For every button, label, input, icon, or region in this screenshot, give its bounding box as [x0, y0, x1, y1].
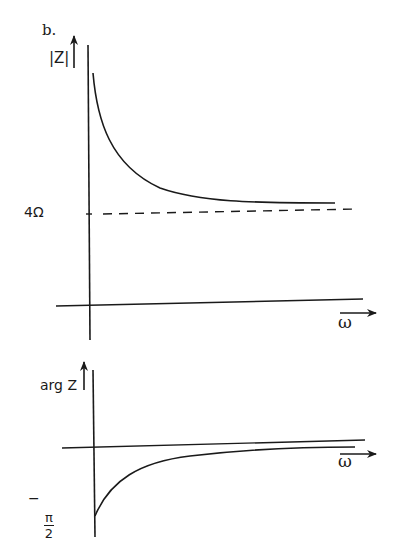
tick-minus-sign: − — [28, 491, 40, 505]
y-axis — [93, 370, 95, 537]
phase-axis-label: arg Z — [40, 378, 77, 392]
phase-plot — [62, 362, 376, 537]
asymptote-line — [103, 209, 358, 214]
tick-label-minus-pi-over-2: π 2 — [44, 511, 54, 541]
fraction-numerator: π — [44, 511, 54, 526]
x-axis — [56, 299, 363, 306]
y-axis — [88, 45, 90, 340]
fraction-denominator: 2 — [44, 526, 54, 541]
phase-curve — [95, 447, 355, 516]
x-axis-label-omega: ω — [338, 314, 352, 331]
magnitude-axis-label: |Z| — [49, 51, 69, 66]
magnitude-curve — [93, 73, 335, 203]
x-axis-label-omega: ω — [338, 453, 352, 470]
magnitude-plot — [56, 36, 376, 340]
tick-label-4ohm: 4Ω — [24, 205, 44, 219]
